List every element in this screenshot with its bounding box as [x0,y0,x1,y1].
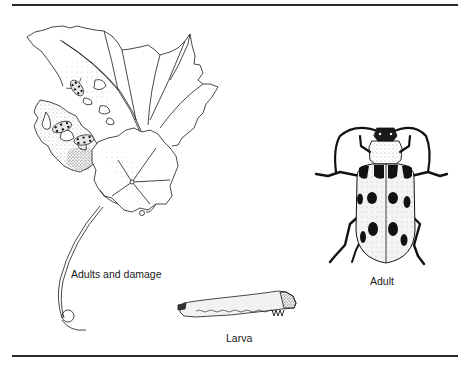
bottom-rule [12,355,458,357]
adult-beetle-illustration [316,128,447,264]
leaf-illustration [27,26,218,216]
larva-illustration [178,291,296,317]
caption-larva: Larva [226,332,252,344]
caption-adult: Adult [370,275,394,287]
illustration [0,0,473,365]
caption-adults-and-damage: Adults and damage [71,268,161,280]
